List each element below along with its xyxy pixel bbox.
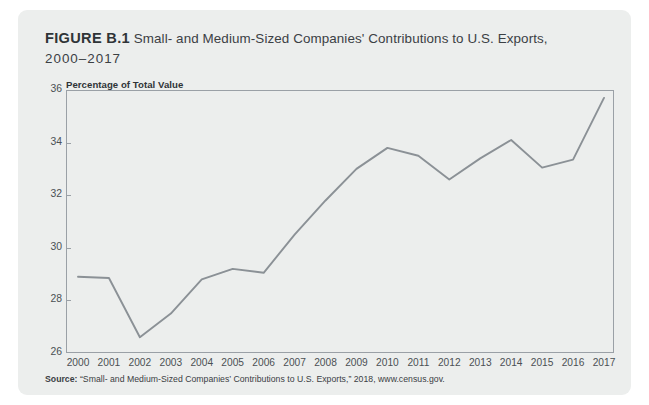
source-label: Source:	[45, 374, 78, 384]
figure-card: FIGURE B.1 Small- and Medium-Sized Compa…	[18, 10, 631, 395]
y-tick-label: 26	[38, 346, 62, 357]
chart-plot-area: Percentage of Total Value 262830323436 2…	[18, 10, 631, 395]
x-axis-tick-labels: 2000200120022003200420052006200720082009…	[66, 357, 614, 373]
y-tick-label: 30	[38, 241, 62, 252]
y-tick-label: 32	[38, 188, 62, 199]
y-tick-mark	[66, 143, 71, 144]
source-note: Source: “Small- and Medium-Sized Compani…	[45, 374, 610, 384]
source-text: “Small- and Medium-Sized Companies’ Cont…	[78, 374, 445, 384]
y-tick-label: 34	[38, 136, 62, 147]
y-tick-mark	[66, 248, 71, 249]
line-chart-svg	[66, 90, 614, 353]
data-series-line	[78, 98, 604, 337]
y-axis-tick-labels: 262830323436	[36, 10, 62, 395]
y-tick-mark	[66, 195, 71, 196]
x-tick-label: 2017	[584, 357, 624, 368]
y-tick-label: 28	[38, 293, 62, 304]
y-tick-mark	[66, 300, 71, 301]
y-tick-label: 36	[38, 83, 62, 94]
y-axis-title: Percentage of Total Value	[66, 79, 183, 90]
